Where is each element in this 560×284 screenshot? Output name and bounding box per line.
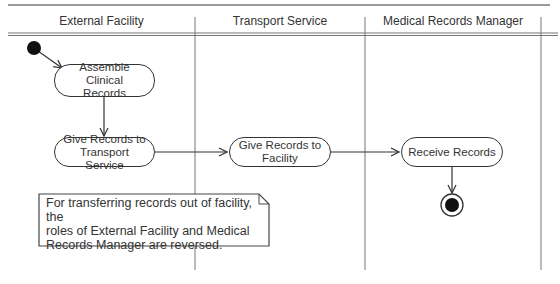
- action-give-records-to-facility: Give Records to Facility: [229, 137, 331, 167]
- note-text: For transferring records out of facility…: [46, 196, 270, 252]
- action-label: Give Records to Facility: [239, 139, 321, 165]
- action-label: Assemble Clinical Records: [61, 61, 148, 100]
- edge-start-to-assemble: [38, 51, 62, 68]
- action-label: Receive Records: [408, 146, 496, 159]
- action-receive-records: Receive Records: [401, 137, 503, 167]
- lane-title-transport-service: Transport Service: [195, 12, 365, 30]
- lane-title-external-facility: External Facility: [8, 12, 195, 30]
- final-node-dot: [445, 198, 459, 212]
- action-give-records-to-transport: Give Records to Transport Service: [54, 137, 155, 167]
- lane-title-medical-records-manager: Medical Records Manager: [365, 12, 541, 30]
- action-label: Give Records to Transport Service: [61, 133, 148, 172]
- initial-node: [27, 41, 41, 55]
- action-assemble-clinical-records: Assemble Clinical Records: [54, 64, 155, 97]
